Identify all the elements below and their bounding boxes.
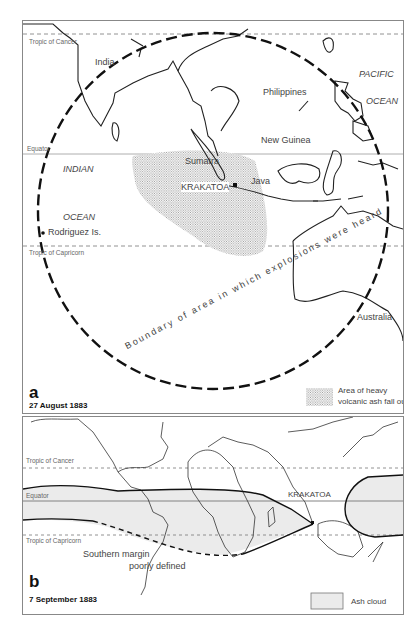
label-equator: Equator bbox=[27, 145, 50, 152]
legend-swatch-ash-cloud bbox=[311, 593, 343, 609]
label-b-equator: Equator bbox=[26, 492, 49, 499]
map-panel-b: Tropic of Cancer Equator Tropic of Capri… bbox=[22, 416, 404, 615]
legend-swatch-ash-fallout bbox=[306, 388, 333, 406]
label-tropic-capricorn: Tropic of Capricorn bbox=[29, 249, 84, 256]
label-pacific: PACIFIC bbox=[359, 69, 394, 79]
krakatoa-marker bbox=[233, 183, 237, 187]
rodriguez-marker bbox=[41, 231, 45, 235]
label-philippines: Philippines bbox=[263, 87, 307, 97]
map-b-graphic bbox=[23, 417, 403, 614]
label-java: Java bbox=[251, 176, 270, 186]
label-tropic-cancer: Tropic of Cancer bbox=[29, 38, 77, 45]
legend-ash-cloud-label: Ash cloud bbox=[351, 597, 386, 606]
label-pacific-ocean: OCEAN bbox=[366, 96, 398, 106]
label-b-tropic-capricorn: Tropic of Capricorn bbox=[26, 537, 81, 544]
krakatoa-marker-b bbox=[311, 521, 314, 524]
panel-a-letter: a bbox=[29, 383, 38, 403]
label-new-guinea: New Guinea bbox=[261, 135, 311, 145]
panel-b-date: 7 September 1883 bbox=[29, 595, 97, 604]
legend-ash-fallout-line2: volcanic ash fall out bbox=[338, 397, 404, 406]
label-b-tropic-cancer: Tropic of Cancer bbox=[26, 457, 74, 464]
label-indian: INDIAN bbox=[63, 164, 94, 174]
label-india: India bbox=[95, 57, 115, 67]
label-southern-margin-line2: poorly defined bbox=[129, 561, 186, 571]
label-indian-ocean: OCEAN bbox=[63, 212, 95, 222]
label-southern-margin-line1: Southern margin bbox=[83, 549, 150, 559]
panel-b-letter: b bbox=[29, 572, 39, 592]
label-rodriguez: Rodriguez Is. bbox=[48, 227, 101, 237]
label-australia: Australia bbox=[357, 312, 392, 322]
label-b-krakatoa: KRAKATOA bbox=[288, 490, 331, 499]
label-krakatoa: KRAKATOA bbox=[181, 182, 229, 192]
legend-ash-fallout-line1: Area of heavy bbox=[338, 386, 387, 395]
ash-fallout-area bbox=[132, 150, 267, 256]
panel-a-date: 27 August 1883 bbox=[29, 401, 87, 410]
label-sumatra: Sumatra bbox=[185, 156, 219, 166]
map-panel-a: Tropic of Cancer Equator Tropic of Capri… bbox=[22, 20, 404, 414]
